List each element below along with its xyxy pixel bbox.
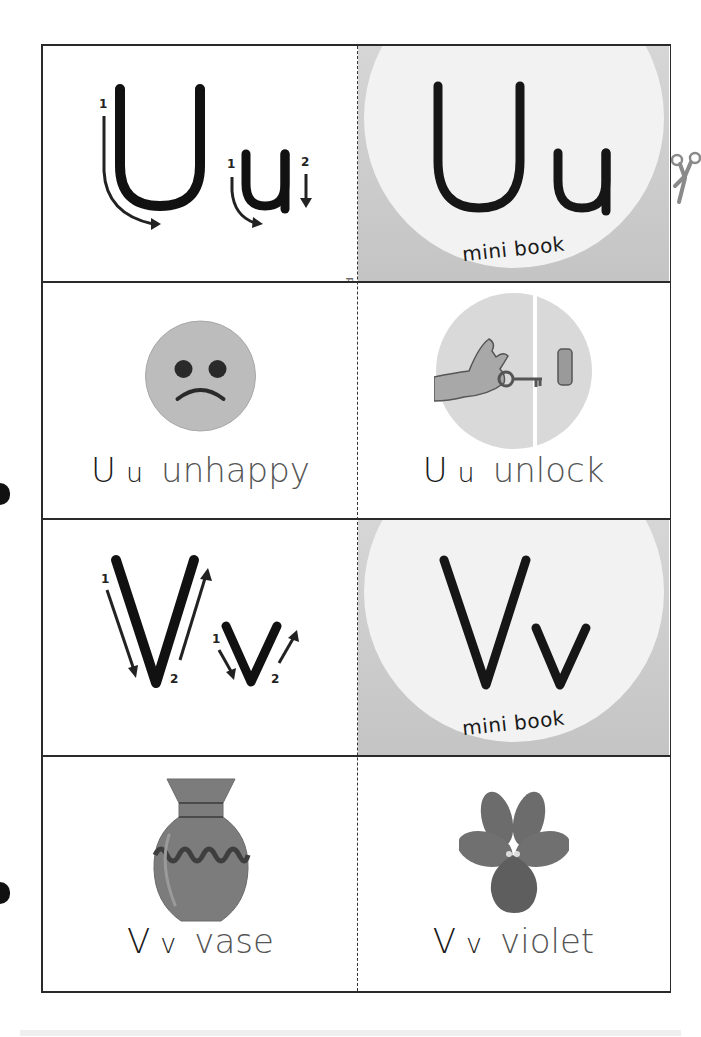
hand-key-door-icon xyxy=(434,291,594,451)
word-label: Vvvase xyxy=(43,921,358,961)
svg-text:1: 1 xyxy=(101,572,109,586)
mini-book-caption: mini book xyxy=(358,711,669,735)
flashcard-sheet: 1 1 2 fold mini book xyxy=(41,44,671,993)
violet-flower-icon xyxy=(459,791,569,916)
svg-text:2: 2 xyxy=(170,672,178,686)
word-label: Uuunlock xyxy=(358,450,669,490)
tracing-card-uu: 1 1 2 fold xyxy=(43,46,358,283)
letter-tracing-vv-icon: 1 2 1 2 xyxy=(43,520,358,757)
word-card-violet: Vvviolet xyxy=(358,757,669,991)
svg-text:2: 2 xyxy=(271,672,279,686)
word-card-unlock: Uuunlock xyxy=(358,283,669,520)
svg-text:1: 1 xyxy=(227,157,235,171)
sad-face-icon xyxy=(143,319,258,434)
vase-icon xyxy=(151,773,251,923)
word-card-vase: Vvvase xyxy=(43,757,358,991)
punch-hole-marker xyxy=(0,882,10,904)
word-card-unhappy: Uuunhappy xyxy=(43,283,358,520)
punch-hole-marker xyxy=(0,483,10,505)
scissors-icon xyxy=(671,150,701,205)
mini-book-cover-uu: mini book xyxy=(358,46,669,283)
footer-band xyxy=(20,1030,681,1036)
fold-line xyxy=(357,46,358,991)
letter-tracing-uu-icon: 1 1 2 xyxy=(43,46,358,283)
svg-text:1: 1 xyxy=(99,97,107,111)
mini-book-caption: mini book xyxy=(358,237,669,261)
word-label: Vvviolet xyxy=(358,921,669,961)
svg-text:1: 1 xyxy=(212,632,220,646)
tracing-card-vv: 1 2 1 2 xyxy=(43,520,358,757)
word-label: Uuunhappy xyxy=(43,450,358,490)
mini-book-cover-vv: mini book xyxy=(358,520,669,757)
svg-text:2: 2 xyxy=(301,155,309,169)
